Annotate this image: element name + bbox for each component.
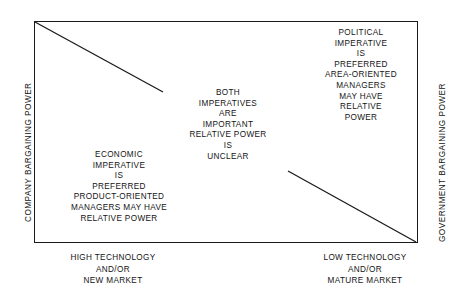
cell-right-line-2: IMPERATIVE: [306, 39, 416, 50]
cell-left-line-2: IMPERATIVE: [44, 161, 194, 172]
cell-right-line-7: MAY HAVE: [306, 92, 416, 103]
caption-right-line-3: MATURE MARKET: [290, 275, 440, 287]
cell-right-line-8: RELATIVE: [306, 102, 416, 113]
cell-right-line-6: MANAGERS: [306, 81, 416, 92]
axis-label-government-bargaining-power: GOVERNMENT BARGAINING POWER: [438, 83, 447, 242]
cell-center-line-6: IS: [176, 141, 280, 152]
cell-text-economic-imperative: ECONOMIC IMPERATIVE IS PREFERRED PRODUCT…: [44, 150, 194, 224]
cell-left-line-6: MANAGERS MAY HAVE: [44, 203, 194, 214]
cell-left-line-1: ECONOMIC: [44, 150, 194, 161]
cell-left-line-5: PRODUCT-ORIENTED: [44, 192, 194, 203]
caption-left-line-2: AND/OR: [38, 264, 188, 276]
cell-left-line-4: PREFERRED: [44, 182, 194, 193]
cell-right-line-1: POLITICAL: [306, 28, 416, 39]
cell-text-both-imperatives: BOTH IMPERATIVES ARE IMPORTANT RELATIVE …: [176, 88, 280, 162]
cell-right-line-9: POWER: [306, 113, 416, 124]
cell-left-line-7: RELATIVE POWER: [44, 214, 194, 225]
cell-center-line-2: IMPERATIVES: [176, 99, 280, 110]
cell-right-line-4: PREFERRED: [306, 60, 416, 71]
cell-center-line-1: BOTH: [176, 88, 280, 99]
caption-left-line-1: HIGH TECHNOLOGY: [38, 252, 188, 264]
cell-left-line-3: IS: [44, 171, 194, 182]
bottom-caption-high-technology: HIGH TECHNOLOGY AND/OR NEW MARKET: [38, 252, 188, 287]
caption-right-line-2: AND/OR: [290, 264, 440, 276]
cell-center-line-5: RELATIVE POWER: [176, 130, 280, 141]
figure-canvas: ECONOMIC IMPERATIVE IS PREFERRED PRODUCT…: [0, 0, 456, 304]
cell-center-line-4: IMPORTANT: [176, 120, 280, 131]
axis-label-company-bargaining-power: COMPANY BARGAINING POWER: [24, 82, 33, 222]
bottom-caption-low-technology: LOW TECHNOLOGY AND/OR MATURE MARKET: [290, 252, 440, 287]
caption-left-line-3: NEW MARKET: [38, 275, 188, 287]
cell-right-line-3: IS: [306, 49, 416, 60]
cell-center-line-7: UNCLEAR: [176, 152, 280, 163]
caption-right-line-1: LOW TECHNOLOGY: [290, 252, 440, 264]
cell-right-line-5: AREA-ORIENTED: [306, 70, 416, 81]
cell-center-line-3: ARE: [176, 109, 280, 120]
cell-text-political-imperative: POLITICAL IMPERATIVE IS PREFERRED AREA-O…: [306, 28, 416, 123]
